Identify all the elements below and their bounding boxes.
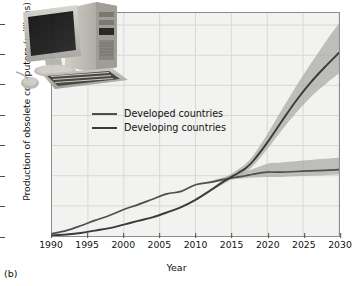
x-tick-2015: 2015: [220, 239, 244, 250]
x-tick-2010: 2010: [184, 239, 208, 250]
computer-illustration-icon: [13, 0, 146, 101]
legend-item-developed: Developed countries: [92, 107, 226, 121]
x-tick-2030: 2030: [328, 239, 352, 250]
chart-legend: Developed countries Developing countries: [92, 107, 226, 135]
x-tick-1995: 1995: [75, 239, 99, 250]
x-tick-2020: 2020: [256, 239, 280, 250]
x-axis-title: Year: [0, 262, 353, 273]
x-tick-1990: 1990: [39, 239, 63, 250]
legend-swatch-developing: [92, 127, 117, 130]
legend-swatch-developed: [92, 113, 117, 115]
x-tick-2025: 2025: [292, 239, 316, 250]
panel-caption: (b): [4, 268, 17, 279]
desktop-computer-photo: [13, 0, 146, 101]
legend-label-developed: Developed countries: [124, 107, 223, 121]
x-tick-2005: 2005: [148, 239, 172, 250]
legend-item-developing: Developing countries: [92, 121, 226, 135]
legend-label-developing: Developing countries: [124, 121, 226, 135]
figure-panel-b: Production of obsolete computers (millio…: [0, 0, 353, 286]
x-tick-2000: 2000: [111, 239, 135, 250]
